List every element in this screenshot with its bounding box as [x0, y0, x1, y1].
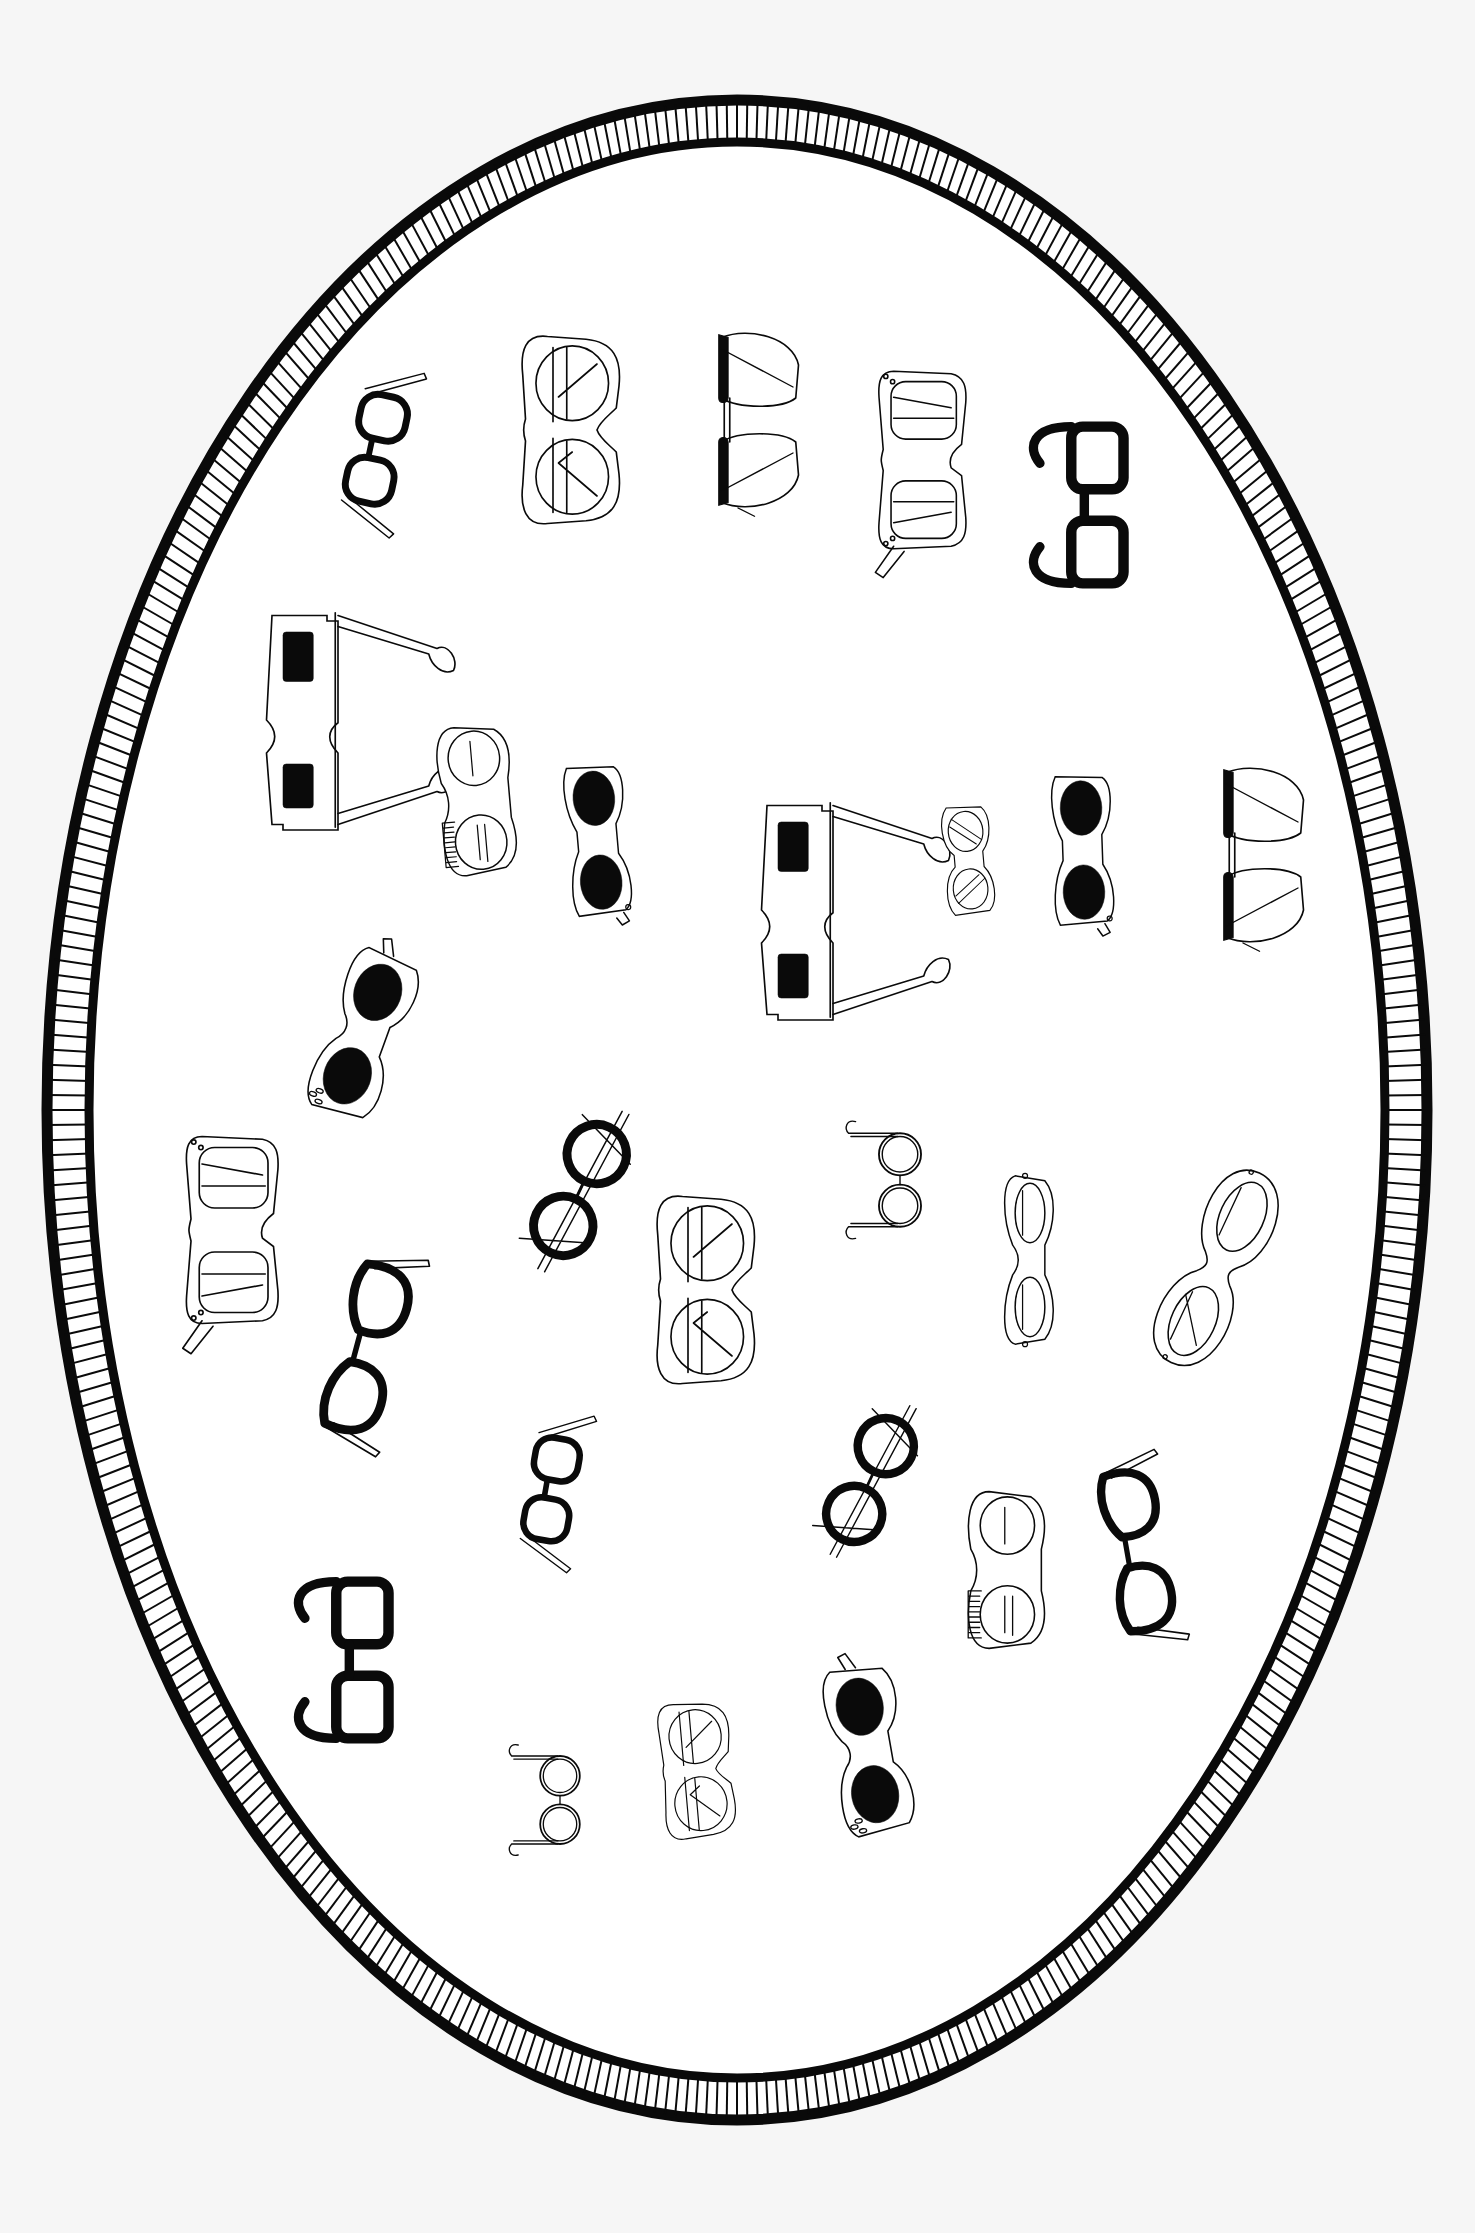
glasses-outline-dots-icon: [183, 1137, 278, 1354]
glasses-outline-brush-icon: [968, 1492, 1044, 1649]
oval-hatched-frame: [47, 100, 1427, 2120]
illustration-canvas: [0, 0, 1475, 2233]
glasses-outline-dots-icon: [875, 371, 966, 577]
glasses-oval-illustration: [0, 0, 1475, 2233]
